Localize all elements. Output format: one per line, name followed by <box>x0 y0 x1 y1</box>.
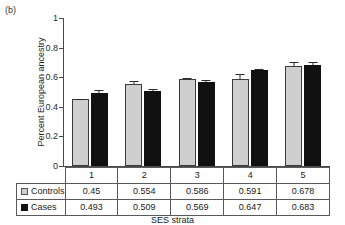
bar-controls <box>179 79 196 166</box>
table-cell: 0.586 <box>171 184 224 200</box>
table-cell: 0.509 <box>118 200 171 216</box>
bar-wrapper <box>125 18 142 166</box>
controls-swatch <box>21 188 28 195</box>
bar-group <box>170 18 223 166</box>
panel-label: (b) <box>5 5 16 15</box>
table-cell: 0.683 <box>277 200 330 216</box>
table-category-header: 1 <box>65 168 118 184</box>
error-bar-cap <box>76 99 85 100</box>
table-row-categories: 12345 <box>17 168 330 184</box>
bar-cases <box>144 91 161 166</box>
bar-wrapper <box>91 18 108 166</box>
bar-wrapper <box>179 18 196 166</box>
bar-group <box>277 18 330 166</box>
bar-cases <box>251 70 268 166</box>
table-cell: 0.45 <box>65 184 118 200</box>
table-cell: 0.678 <box>277 184 330 200</box>
error-bar-cap <box>202 80 211 81</box>
table-row-header: Cases <box>17 200 66 216</box>
y-axis-tick-label: 0.4 <box>45 102 58 112</box>
bar-groups <box>63 18 330 166</box>
y-axis-tick-label: 0.8 <box>45 43 58 53</box>
bar-wrapper <box>304 18 321 166</box>
bar-wrapper <box>72 18 89 166</box>
table-cell: 0.591 <box>224 184 277 200</box>
table-row: Cases0.4930.5090.5690.6470.683 <box>17 200 330 216</box>
bar-controls <box>72 99 89 166</box>
legend-label: Cases <box>31 202 57 212</box>
data-table: 12345Controls0.450.5540.5860.5910.678Cas… <box>16 167 330 216</box>
y-axis-tick-label: 0.2 <box>45 131 58 141</box>
y-axis-tick-label: 0.6 <box>45 72 58 82</box>
error-bar-cap <box>255 69 264 70</box>
table-cell: 0.554 <box>118 184 171 200</box>
x-axis-caption: SES strata <box>0 215 345 225</box>
table-row: Controls0.450.5540.5860.5910.678 <box>17 184 330 200</box>
plot-area: Percent European ancestry <box>63 18 330 167</box>
bar-group <box>63 18 116 166</box>
table-category-header: 3 <box>171 168 224 184</box>
error-bar-cap <box>129 81 138 82</box>
legend-label: Controls <box>31 186 65 196</box>
bar-cases <box>304 65 321 166</box>
cases-swatch <box>21 204 28 211</box>
bar-group <box>223 18 276 166</box>
error-bar-cap <box>183 78 192 79</box>
error-bar-cap <box>95 90 104 91</box>
error-bar-cap <box>236 74 245 75</box>
table-cell: 0.647 <box>224 200 277 216</box>
bar-wrapper <box>285 18 302 166</box>
table-corner-cell <box>17 168 66 184</box>
table-cell: 0.493 <box>65 200 118 216</box>
bar-controls <box>285 66 302 166</box>
table-row-header: Controls <box>17 184 66 200</box>
bar-wrapper <box>198 18 215 166</box>
error-bar-cap <box>289 62 298 63</box>
bar-controls <box>125 84 142 166</box>
table-category-header: 5 <box>277 168 330 184</box>
y-axis-title: Percent European ancestry <box>36 37 46 146</box>
bar-group <box>116 18 169 166</box>
error-bar-cap <box>148 89 157 90</box>
y-axis-tick-label: 1 <box>53 13 58 23</box>
bar-cases <box>198 82 215 166</box>
error-bar-cap <box>308 62 317 63</box>
table-category-header: 4 <box>224 168 277 184</box>
bar-wrapper <box>144 18 161 166</box>
bar-cases <box>91 93 108 166</box>
bar-wrapper <box>232 18 249 166</box>
bar-controls <box>232 79 249 166</box>
table-cell: 0.569 <box>171 200 224 216</box>
bar-wrapper <box>251 18 268 166</box>
table-category-header: 2 <box>118 168 171 184</box>
